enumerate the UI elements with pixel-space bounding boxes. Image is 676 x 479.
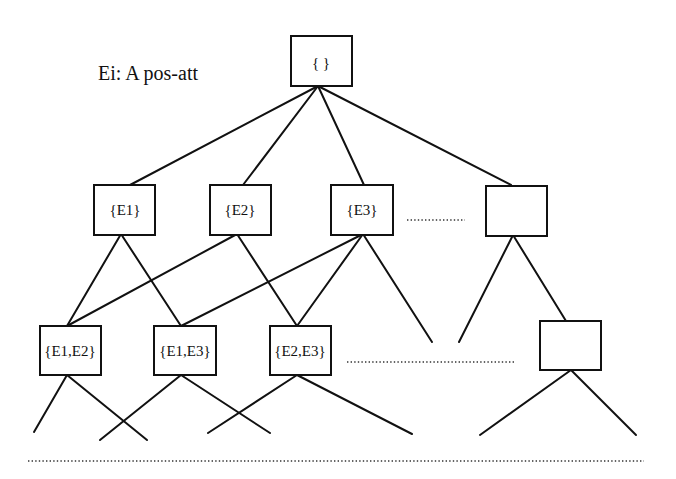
node-level2-more [540, 321, 601, 370]
svg-text:{E2,E3}: {E2,E3} [274, 343, 325, 359]
svg-text:{ }: { } [312, 55, 330, 71]
svg-text:{E1}: {E1} [109, 202, 140, 218]
legend-text: Ei: A pos-att [98, 62, 198, 85]
svg-text:{E1,E2}: {E1,E2} [44, 343, 95, 359]
node-e1e2: {E1,E2} [40, 326, 101, 375]
edges-root [130, 86, 511, 185]
svg-text:{E1,E3}: {E1,E3} [159, 343, 210, 359]
node-e2: {E2} [210, 185, 271, 235]
node-e2e3: {E2,E3} [270, 326, 331, 375]
node-e1: {E1} [94, 185, 155, 235]
node-e3: {E3} [331, 185, 393, 235]
node-level1-more [486, 186, 547, 236]
lattice-diagram: Ei: A pos-att { } {E1} [0, 0, 676, 479]
node-root: { } [291, 36, 352, 86]
node-e1e3: {E1,E3} [154, 326, 216, 375]
svg-text:{E3}: {E3} [346, 202, 377, 218]
svg-text:{E2}: {E2} [224, 202, 255, 218]
edges-level2 [34, 370, 636, 440]
